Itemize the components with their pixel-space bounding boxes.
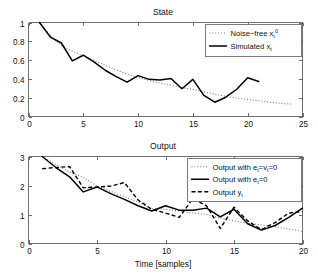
output-chart-title: Output (150, 141, 176, 151)
x-tick-label: 10 (134, 120, 144, 129)
x-tick-label: 10 (162, 247, 172, 256)
y-tick-label: 3 (20, 154, 25, 163)
x-tick-label: 0 (27, 247, 32, 256)
x-tick-label: 0 (27, 120, 32, 129)
output-chart-svg: Output 05101520 0123 Time [samples] Outp… (0, 135, 318, 277)
state-legend: Noise−free xt0Simulated xt (205, 24, 301, 56)
y-tick-label: 0.2 (13, 95, 25, 104)
legend-item-label: Simulated xt (231, 42, 273, 52)
state-chart-svg: State 0510152025 00.20.40.60.81 Noise−fr… (0, 0, 318, 137)
legend-item-label: Noise−free xt0 (231, 28, 278, 39)
y-tick-label: 1 (20, 212, 25, 221)
x-tick-label: 15 (189, 120, 199, 129)
x-tick-label: 20 (244, 120, 254, 129)
y-tick-label: 0.6 (13, 57, 25, 66)
y-tick-label: 0 (20, 114, 25, 123)
x-tick-label: 25 (299, 120, 309, 129)
output-legend: Output with et=vt=0Output with et=0Outpu… (187, 158, 301, 202)
y-tick-label: 0.4 (13, 76, 25, 85)
figure-container: State 0510152025 00.20.40.60.81 Noise−fr… (0, 0, 318, 277)
output-x-axis-label: Time [samples] (135, 259, 191, 269)
x-tick-label: 20 (299, 247, 309, 256)
x-tick-label: 5 (81, 120, 86, 129)
state-chart-title: State (153, 7, 173, 17)
y-tick-label: 0 (20, 241, 25, 250)
legend-item-label: Output yt (213, 188, 244, 198)
chart-panel-output: Output 05101520 0123 Time [samples] Outp… (0, 135, 318, 277)
chart-panel-state: State 0510152025 00.20.40.60.81 Noise−fr… (0, 0, 318, 137)
legend-item-label: Output with et=0 (213, 175, 268, 185)
y-tick-label: 1 (20, 20, 25, 29)
x-tick-label: 5 (95, 247, 100, 256)
y-tick-label: 2 (20, 183, 25, 192)
x-tick-label: 15 (230, 247, 240, 256)
y-tick-label: 0.8 (13, 38, 25, 47)
